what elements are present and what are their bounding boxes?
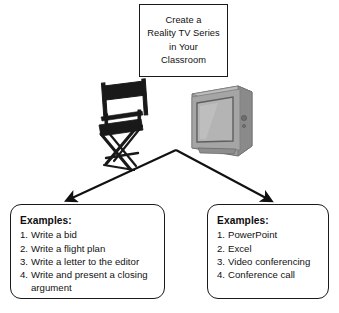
list-item-text: Write and present a closing argument	[31, 268, 164, 294]
list-item-text: Write a letter to the editor	[31, 255, 164, 268]
list-item-text: Write a flight plan	[31, 242, 164, 255]
list-item-number: 2.	[217, 242, 228, 255]
list-item: 1. Write a bid	[20, 228, 164, 241]
list-item-number: 1.	[20, 228, 31, 241]
arrow-to-right-examples	[176, 150, 266, 198]
arrow-to-left-examples	[72, 150, 176, 198]
right-examples-heading: Examples:	[217, 214, 328, 227]
list-item-number: 2.	[20, 242, 31, 255]
list-item-number: 4.	[20, 268, 31, 281]
left-examples-box: Examples: 1. Write a bid 2. Write a flig…	[10, 204, 165, 299]
list-item-text: Write a bid	[31, 228, 164, 241]
list-item-number: 3.	[217, 255, 228, 268]
list-item: 3. Write a letter to the editor	[20, 255, 164, 268]
list-item: 4. Write and present a closing argument	[20, 268, 164, 294]
left-examples-list: 1. Write a bid 2. Write a flight plan 3.…	[20, 228, 164, 294]
list-item: 1. PowerPoint	[217, 228, 328, 241]
list-item: 2. Write a flight plan	[20, 242, 164, 255]
diagram-canvas: Create a Reality TV Series in Your Class…	[0, 0, 339, 313]
list-item-number: 1.	[217, 228, 228, 241]
list-item: 3. Video conferencing	[217, 255, 328, 268]
list-item: 4. Conference call	[217, 268, 328, 281]
list-item-text: PowerPoint	[228, 228, 328, 241]
list-item-number: 3.	[20, 255, 31, 268]
list-item-text: Excel	[228, 242, 328, 255]
list-item-number: 4.	[217, 268, 228, 281]
list-item-text: Video conferencing	[228, 255, 328, 268]
right-examples-list: 1. PowerPoint 2. Excel 3. Video conferen…	[217, 228, 328, 281]
list-item-text: Conference call	[228, 268, 328, 281]
left-examples-heading: Examples:	[20, 214, 164, 227]
right-examples-box: Examples: 1. PowerPoint 2. Excel 3. Vide…	[207, 204, 329, 299]
list-item: 2. Excel	[217, 242, 328, 255]
